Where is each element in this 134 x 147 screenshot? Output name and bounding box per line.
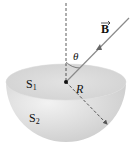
radius-label: R	[75, 82, 84, 96]
angle-label: θ	[73, 50, 79, 62]
center-point	[64, 80, 68, 84]
hemisphere-flux-diagram: B θ R S1 S2	[0, 0, 134, 147]
field-label: B	[101, 22, 109, 36]
